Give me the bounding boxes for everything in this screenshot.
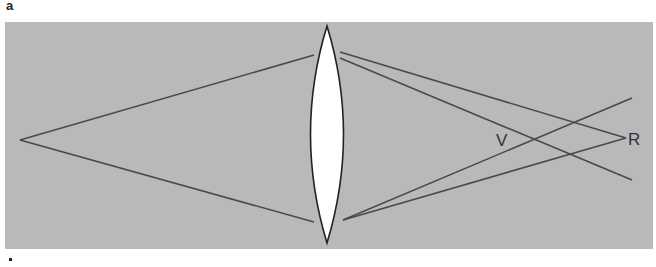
ray-diagram: V R [0,0,656,267]
footnote-mark [9,258,12,261]
label-v: V [496,131,508,150]
label-r: R [628,130,640,149]
